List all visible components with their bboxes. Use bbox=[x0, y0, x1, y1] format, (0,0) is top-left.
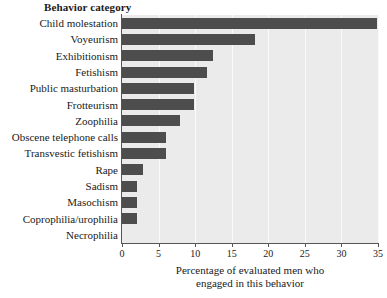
category-label: Obscene telephone calls bbox=[0, 131, 118, 143]
category-label: Masochism bbox=[0, 196, 118, 208]
x-axis-tick bbox=[122, 243, 123, 247]
category-label: Child molestation bbox=[0, 17, 118, 29]
bar bbox=[122, 34, 255, 45]
bar bbox=[122, 181, 137, 192]
bar bbox=[122, 197, 137, 208]
x-axis-tick bbox=[268, 243, 269, 247]
x-axis-tick-label: 30 bbox=[328, 248, 354, 260]
category-axis-title: Behavior category bbox=[44, 0, 131, 14]
x-axis-title-line1: Percentage of evaluated men who bbox=[122, 264, 378, 277]
category-label: Fetishism bbox=[0, 66, 118, 78]
x-axis-tick-label: 5 bbox=[146, 248, 172, 260]
gridline bbox=[378, 15, 379, 243]
x-axis-tick-label: 20 bbox=[255, 248, 281, 260]
bar bbox=[122, 132, 166, 143]
x-axis-tick-label: 15 bbox=[219, 248, 245, 260]
bar bbox=[122, 115, 180, 126]
x-axis-tick-label: 0 bbox=[109, 248, 135, 260]
x-axis-tick-label: 10 bbox=[182, 248, 208, 260]
bar bbox=[122, 67, 207, 78]
bar bbox=[122, 213, 137, 224]
x-axis-line bbox=[121, 243, 379, 244]
x-axis-title-line2: engaged in this behavior bbox=[122, 277, 378, 290]
x-axis-tick-label: 25 bbox=[292, 248, 318, 260]
category-label: Necrophilia bbox=[0, 229, 118, 241]
x-axis-tick bbox=[341, 243, 342, 247]
category-label: Sadism bbox=[0, 180, 118, 192]
bar bbox=[122, 99, 194, 110]
plot-area bbox=[122, 15, 378, 243]
bar bbox=[122, 164, 143, 175]
x-axis-tick bbox=[195, 243, 196, 247]
x-axis-tick bbox=[305, 243, 306, 247]
category-label: Zoophilia bbox=[0, 115, 118, 127]
bars-layer bbox=[122, 15, 378, 243]
x-axis-tick bbox=[378, 243, 379, 247]
bar-chart: Behavior category Child molestationVoyeu… bbox=[0, 0, 387, 298]
category-label: Exhibitionism bbox=[0, 50, 118, 62]
bar bbox=[122, 83, 194, 94]
bar bbox=[122, 148, 166, 159]
x-axis-tick-label: 35 bbox=[365, 248, 387, 260]
category-labels: Child molestationVoyeurismExhibitionismF… bbox=[0, 15, 118, 243]
x-axis-tick bbox=[232, 243, 233, 247]
category-label: Rape bbox=[0, 164, 118, 176]
x-axis-tick bbox=[159, 243, 160, 247]
category-label: Transvestic fetishism bbox=[0, 147, 118, 159]
x-axis-title: Percentage of evaluated men who engaged … bbox=[122, 264, 378, 290]
bar bbox=[122, 18, 377, 29]
bar bbox=[122, 50, 213, 61]
category-label: Public masturbation bbox=[0, 82, 118, 94]
category-label: Voyeurism bbox=[0, 33, 118, 45]
category-label: Coprophilia/urophilia bbox=[0, 213, 118, 225]
category-label: Frotteurism bbox=[0, 99, 118, 111]
